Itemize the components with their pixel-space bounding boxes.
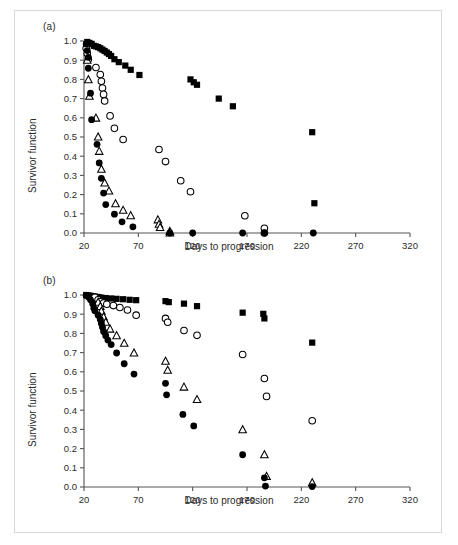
- data-point: [95, 147, 103, 154]
- data-point: [119, 218, 126, 225]
- data-point: [127, 297, 133, 303]
- data-point: [83, 40, 90, 47]
- data-point: [108, 341, 115, 348]
- data-point: [111, 125, 118, 132]
- data-point: [85, 76, 93, 83]
- data-point: [100, 91, 107, 98]
- data-point: [309, 129, 315, 135]
- figure-container: (a) Survivor function 0.00.10.20.30.40.5…: [14, 10, 442, 533]
- data-point: [87, 90, 94, 97]
- data-point: [166, 299, 172, 305]
- data-point: [130, 349, 138, 356]
- data-point: [107, 113, 114, 120]
- data-point: [108, 295, 114, 301]
- data-point: [119, 206, 127, 213]
- data-point: [106, 325, 114, 332]
- data-point: [96, 160, 103, 167]
- data-point: [190, 423, 197, 430]
- data-point: [100, 190, 107, 197]
- data-point: [261, 315, 267, 321]
- data-point: [194, 303, 200, 309]
- panel-b: (b) Survivor function 0.00.10.20.30.40.5…: [15, 267, 443, 525]
- data-point: [240, 310, 246, 316]
- data-point: [101, 98, 108, 105]
- data-point: [239, 451, 246, 458]
- data-point: [120, 339, 128, 346]
- y-tick-label: 0.6: [64, 366, 77, 377]
- data-point: [310, 230, 317, 237]
- panel-a: (a) Survivor function 0.00.10.20.30.40.5…: [15, 13, 443, 271]
- data-point: [94, 133, 102, 140]
- y-tick-label: 0.5: [64, 385, 77, 396]
- y-tick-label: 0.1: [64, 462, 77, 473]
- data-point: [309, 340, 315, 346]
- y-tick-label: 1.0: [64, 35, 77, 46]
- data-point: [262, 483, 269, 490]
- data-point: [104, 301, 111, 308]
- data-point: [179, 411, 186, 418]
- data-point: [97, 71, 104, 78]
- data-point: [187, 188, 194, 195]
- data-point: [114, 296, 120, 302]
- y-tick-label: 0.0: [64, 481, 77, 492]
- data-point: [110, 302, 117, 309]
- data-point: [166, 230, 173, 237]
- data-point: [261, 474, 268, 481]
- y-tick-label: 0.0: [64, 227, 77, 238]
- series-open-triangle: [94, 298, 316, 486]
- data-point: [189, 230, 196, 237]
- y-tick-label: 0.4: [64, 405, 77, 416]
- data-point: [193, 396, 201, 403]
- data-point: [164, 366, 172, 373]
- data-point: [98, 175, 105, 182]
- panel-b-plot: 0.00.10.20.30.40.50.60.70.80.91.02070120…: [15, 267, 443, 507]
- data-point: [120, 296, 126, 302]
- data-point: [124, 307, 131, 314]
- data-point: [113, 332, 121, 339]
- y-tick-label: 0.8: [64, 74, 77, 85]
- y-tick-label: 0.2: [64, 189, 77, 200]
- data-point: [181, 301, 187, 307]
- data-point: [261, 230, 268, 237]
- data-point: [99, 85, 106, 92]
- data-point: [116, 59, 122, 65]
- data-point: [94, 141, 101, 148]
- data-point: [131, 371, 138, 378]
- data-point: [85, 54, 92, 61]
- data-point: [242, 212, 249, 219]
- y-tick-label: 0.3: [64, 170, 77, 181]
- data-point: [239, 230, 246, 237]
- data-point: [163, 391, 170, 398]
- y-tick-label: 0.7: [64, 347, 77, 358]
- data-point: [133, 297, 139, 303]
- data-point: [120, 136, 127, 143]
- data-point: [111, 211, 118, 218]
- data-point: [261, 375, 268, 382]
- y-tick-label: 0.4: [64, 151, 77, 162]
- data-point: [84, 47, 91, 54]
- data-point: [117, 304, 124, 311]
- data-point: [309, 483, 316, 490]
- data-point: [127, 212, 135, 219]
- data-point: [98, 78, 105, 85]
- y-tick-label: 0.3: [64, 424, 77, 435]
- series-filled-square: [84, 39, 317, 206]
- data-point: [194, 82, 200, 88]
- series-filled-circle: [83, 292, 316, 490]
- panel-a-x-axis-label: Days to progression: [15, 241, 443, 252]
- series-open-circle: [83, 45, 268, 236]
- data-point: [239, 426, 247, 433]
- data-point: [130, 223, 137, 230]
- panel-b-x-axis-label: Days to progression: [15, 495, 443, 506]
- data-point: [162, 158, 169, 165]
- data-point: [133, 312, 140, 319]
- y-tick-label: 0.2: [64, 443, 77, 454]
- data-point: [164, 319, 171, 326]
- data-point: [93, 64, 100, 71]
- data-point: [113, 350, 120, 357]
- data-point: [85, 65, 92, 72]
- y-tick-label: 0.7: [64, 93, 77, 104]
- y-tick-label: 0.9: [64, 309, 77, 320]
- data-point: [181, 327, 188, 334]
- series-open-circle: [92, 294, 316, 424]
